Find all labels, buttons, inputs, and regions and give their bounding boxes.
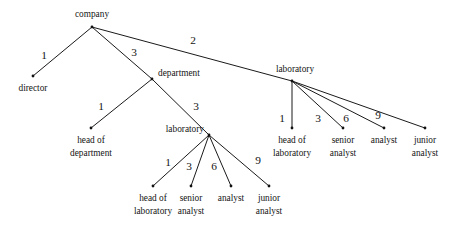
node-label-company: company [75, 9, 109, 19]
node-dot-laboratory-left [208, 134, 211, 137]
node-label-senior-analyst-left: senior [180, 193, 204, 203]
node-dot-department [151, 78, 154, 81]
node-label-junior-analyst-right-line2: analyst [412, 148, 439, 158]
node-label-head-of-laboratory-right-line2: laboratory [273, 148, 312, 158]
node-label-head-of-laboratory-left: head of [139, 193, 168, 203]
edges-group [33, 27, 425, 186]
edge-label-laboratory-right-junior-analyst: 9 [375, 109, 381, 121]
node-label-head-of-laboratory-left-line2: laboratory [134, 206, 173, 216]
edge-laboratory-right-analyst [292, 81, 384, 128]
node-label-senior-analyst-right-line2: analyst [330, 148, 357, 158]
edge-label-laboratory-left-head-of-laboratory: 1 [165, 156, 171, 168]
node-label-junior-analyst-left-line2: analyst [256, 206, 283, 216]
node-label-laboratory-right: laboratory [276, 64, 315, 74]
node-dot-director [32, 75, 35, 78]
nodes-group [32, 26, 427, 188]
node-dot-senior-analyst-right [342, 127, 345, 130]
edge-label-laboratory-right-analyst: 6 [343, 112, 349, 124]
node-label-head-of-laboratory-right: head of [278, 135, 307, 145]
edge-label-laboratory-left-senior-analyst: 3 [186, 160, 192, 172]
edge-label-laboratory-right-senior-analyst: 3 [315, 112, 321, 124]
edge-label-company-department: 3 [131, 46, 137, 58]
edge-label-laboratory-right-head-of-laboratory: 1 [279, 112, 285, 124]
edge-label-laboratory-left-junior-analyst: 9 [255, 154, 261, 166]
node-label-department: department [158, 68, 200, 78]
node-dot-head-of-laboratory-right [291, 127, 294, 130]
node-dot-junior-analyst-right [424, 127, 427, 130]
node-dot-analyst-left [230, 185, 233, 188]
edge-label-company-laboratory: 2 [190, 34, 196, 46]
node-label-analyst-right: analyst [371, 135, 398, 145]
node-dot-senior-analyst-left [190, 185, 193, 188]
edge-label-laboratory-left-analyst: 6 [211, 160, 217, 172]
node-dot-company [91, 26, 94, 29]
edge-laboratory-left-head-of-laboratory [153, 135, 209, 186]
node-label-head-of-department-line2: department [70, 148, 112, 158]
node-label-laboratory-left: laboratory [166, 124, 205, 134]
tree-diagram-canvas: 1321313691369 companydirectordepartmentl… [0, 0, 451, 236]
node-label-junior-analyst-right: junior [413, 135, 437, 145]
edge-label-department-laboratory: 3 [193, 100, 199, 112]
node-dot-junior-analyst-left [268, 185, 271, 188]
edge-label-department-head-of-department: 1 [98, 100, 104, 112]
edge-laboratory-right-junior-analyst [292, 81, 425, 128]
node-dot-head-of-department [90, 127, 93, 130]
node-label-senior-analyst-right: senior [332, 135, 356, 145]
node-dot-analyst-right [383, 127, 386, 130]
node-label-director: director [19, 83, 49, 93]
edge-label-company-director: 1 [41, 49, 47, 61]
node-label-analyst-left: analyst [218, 193, 245, 203]
node-label-junior-analyst-left: junior [257, 193, 281, 203]
node-label-head-of-department: head of [77, 135, 106, 145]
node-label-senior-analyst-left-line2: analyst [178, 206, 205, 216]
org-tree-diagram: 1321313691369 companydirectordepartmentl… [0, 0, 451, 236]
node-dot-laboratory-right [291, 80, 294, 83]
node-dot-head-of-laboratory-left [152, 185, 155, 188]
